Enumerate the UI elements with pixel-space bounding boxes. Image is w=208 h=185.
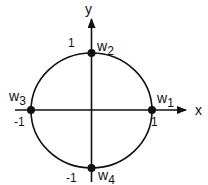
point-w2 [88,49,96,57]
point-w3 [27,106,35,114]
tick-x-neg: -1 [14,115,25,129]
y-axis-label: y [85,1,92,17]
tick-x-pos: 1 [151,115,158,129]
x-axis-label: x [195,102,202,118]
label-w4: w4 [97,167,115,185]
label-w1: w1 [156,90,174,110]
unit-circle-diagram: x y 1 -1 1 -1 w1 w2 w3 w4 [0,0,208,185]
point-w1 [148,106,156,114]
label-w3: w3 [8,88,26,108]
tick-y-neg: -1 [66,171,77,185]
tick-y-pos: 1 [68,36,75,50]
point-w4 [88,164,96,172]
diagram-canvas: x y 1 -1 1 -1 w1 w2 w3 w4 [0,0,208,185]
